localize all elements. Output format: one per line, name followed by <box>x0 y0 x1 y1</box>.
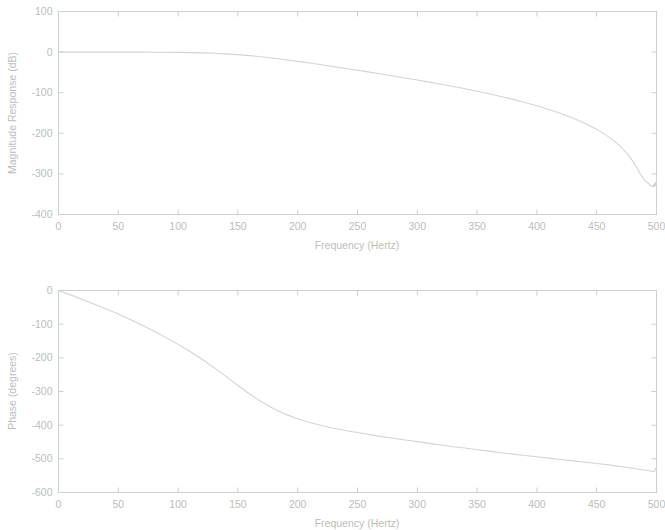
figure-canvas: 050100150200250300350400450500 1000-100-… <box>0 0 665 530</box>
magnitude-x-tickmarks <box>59 12 657 215</box>
x-tick-label: 400 <box>528 220 546 232</box>
y-tick-label: -400 <box>31 419 52 431</box>
x-tick-label: 350 <box>468 498 486 510</box>
x-tick-label: 150 <box>229 220 247 232</box>
phase-curve <box>59 291 657 472</box>
magnitude-response-svg: 050100150200250300350400450500 1000-100-… <box>0 0 665 265</box>
y-tick-label: 0 <box>47 284 53 296</box>
x-tick-label: 300 <box>409 220 427 232</box>
phase-response-plot: 050100150200250300350400450500 0-100-200… <box>0 265 665 530</box>
magnitude-response-plot: 050100150200250300350400450500 1000-100-… <box>0 0 665 265</box>
y-tick-label: -300 <box>31 167 52 179</box>
y-tick-label: -300 <box>31 385 52 397</box>
x-tick-label: 250 <box>349 220 367 232</box>
magnitude-y-axis-label: Magnitude Response (dB) <box>6 52 18 174</box>
phase-x-ticklabels: 050100150200250300350400450500 <box>56 498 665 510</box>
y-tick-label: -400 <box>31 208 52 220</box>
magnitude-curve <box>59 52 657 187</box>
phase-y-ticklabels: 0-100-200-300-400-500-600 <box>31 284 52 498</box>
x-tick-label: 100 <box>169 220 187 232</box>
phase-y-axis-label: Phase (degrees) <box>6 352 18 430</box>
y-tick-label: -200 <box>31 351 52 363</box>
x-tick-label: 450 <box>588 220 606 232</box>
x-tick-label: 450 <box>588 498 606 510</box>
y-tick-label: -200 <box>31 127 52 139</box>
x-tick-label: 250 <box>349 498 367 510</box>
y-tick-label: -100 <box>31 318 52 330</box>
y-tick-label: -100 <box>31 86 52 98</box>
y-tick-label: -600 <box>31 486 52 498</box>
magnitude-y-tickmarks <box>59 12 657 215</box>
magnitude-x-axis-label: Frequency (Hertz) <box>315 239 400 251</box>
x-tick-label: 0 <box>56 220 62 232</box>
x-tick-label: 50 <box>112 220 124 232</box>
phase-x-axis-label: Frequency (Hertz) <box>315 517 400 529</box>
magnitude-frame <box>59 12 657 215</box>
x-tick-label: 500 <box>648 220 665 232</box>
x-tick-label: 200 <box>289 220 307 232</box>
x-tick-label: 500 <box>648 498 665 510</box>
magnitude-x-ticklabels: 050100150200250300350400450500 <box>56 220 665 232</box>
y-tick-label: 0 <box>47 46 53 58</box>
x-tick-label: 300 <box>409 498 427 510</box>
x-tick-label: 200 <box>289 498 307 510</box>
x-tick-label: 400 <box>528 498 546 510</box>
x-tick-label: 150 <box>229 498 247 510</box>
phase-frame <box>59 291 657 493</box>
x-tick-label: 100 <box>169 498 187 510</box>
x-tick-label: 50 <box>112 498 124 510</box>
x-tick-label: 0 <box>56 498 62 510</box>
y-tick-label: 100 <box>35 5 53 17</box>
magnitude-y-ticklabels: 1000-100-200-300-400 <box>31 5 52 220</box>
y-tick-label: -500 <box>31 452 52 464</box>
phase-x-tickmarks <box>59 291 657 493</box>
phase-y-tickmarks <box>59 291 657 493</box>
x-tick-label: 350 <box>468 220 486 232</box>
phase-response-svg: 050100150200250300350400450500 0-100-200… <box>0 265 665 530</box>
